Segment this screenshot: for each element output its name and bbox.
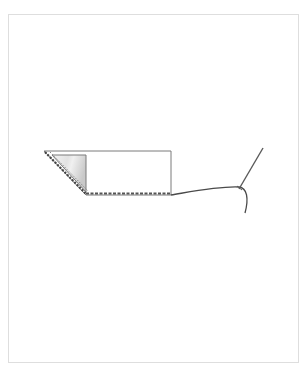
sewing-diagram	[0, 0, 307, 377]
needle-icon	[237, 148, 263, 190]
folded-corner-triangle	[52, 155, 86, 192]
thread	[171, 187, 247, 213]
